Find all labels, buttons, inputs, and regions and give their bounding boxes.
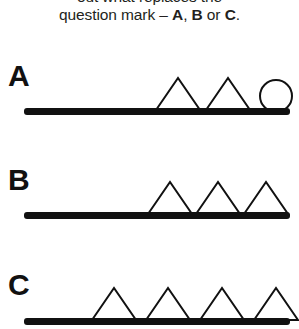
prompt-conjunction-or: or [203, 6, 225, 23]
prompt-choice-b: B [192, 6, 203, 23]
option-a-figure [0, 58, 299, 120]
prompt-line-2: question mark – A, B or C. [0, 6, 299, 24]
option-c-diagram [0, 266, 299, 329]
triangle [244, 182, 288, 214]
prompt-period: . [236, 6, 240, 23]
triangle [156, 78, 200, 110]
option-b-diagram [0, 162, 299, 224]
horizontal-bar [24, 318, 290, 325]
triangle [148, 182, 192, 214]
prompt-choice-c: C [225, 6, 236, 23]
prompt-choice-a: A [172, 6, 183, 23]
prompt-comma: , [183, 6, 191, 23]
triangle [196, 182, 240, 214]
triangle [92, 288, 136, 320]
triangle [254, 288, 298, 320]
circle [260, 80, 292, 112]
puzzle-page: out what replaces the question mark – A,… [0, 0, 299, 329]
option-row-b[interactable]: B [0, 162, 299, 224]
triangle [146, 288, 190, 320]
horizontal-bar [24, 212, 290, 219]
option-b-figure [0, 162, 299, 224]
question-prompt: out what replaces the question mark – A,… [0, 0, 299, 24]
horizontal-bar [24, 108, 290, 115]
triangle [206, 78, 250, 110]
prompt-dash: – [159, 6, 172, 23]
option-row-c[interactable]: C [0, 266, 299, 329]
option-row-a[interactable]: A [0, 58, 299, 120]
option-a-diagram [0, 58, 299, 120]
triangle [200, 288, 244, 320]
option-c-figure [0, 266, 299, 329]
prompt-text-question-mark: question mark [59, 6, 159, 23]
